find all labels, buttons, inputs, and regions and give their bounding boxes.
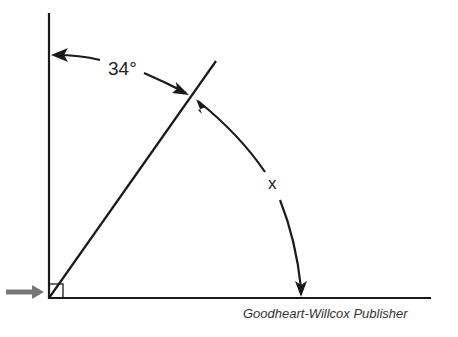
arc-x-upper [198, 101, 265, 172]
angle-34-label: 34° [108, 58, 137, 80]
angle-diagram [0, 0, 458, 337]
pointer-arrow-icon [6, 285, 44, 299]
arc-x-lower [280, 200, 301, 288]
diagonal-line [49, 61, 216, 298]
arrowhead-icon [196, 99, 206, 114]
publisher-credit: Goodheart-Willcox Publisher [243, 306, 408, 321]
arrowhead-icon [172, 82, 189, 95]
angle-x-label: x [268, 174, 277, 194]
